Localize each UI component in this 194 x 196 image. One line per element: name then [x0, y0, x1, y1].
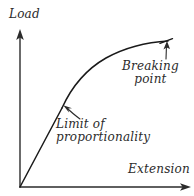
annotation-limit-line1: Limit of	[56, 118, 150, 131]
x-axis-label: Extension	[128, 163, 190, 176]
annotation-limit-line2: proportionality	[56, 131, 150, 144]
annotation-breaking-point: Breaking point	[122, 60, 179, 85]
y-axis	[16, 29, 24, 187]
breaking-point-leader	[163, 41, 170, 59]
y-axis-label: Load	[9, 8, 40, 21]
annotation-breaking-point-line2: point	[122, 73, 179, 86]
load-extension-figure: Load Extension Breaking point Limit of p…	[0, 0, 194, 196]
annotation-breaking-point-line1: Breaking	[122, 60, 179, 73]
annotation-limit-of-proportionality: Limit of proportionality	[56, 118, 150, 143]
x-axis	[20, 183, 191, 191]
